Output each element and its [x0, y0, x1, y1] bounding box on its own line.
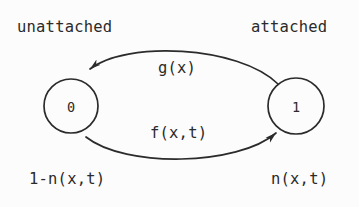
state-caption-unattached: unattached [17, 20, 112, 36]
state-caption-attached: attached [251, 20, 327, 36]
transition-label-f: f(x,t) [150, 126, 207, 142]
state-node-0-label: 0 [67, 99, 75, 115]
transition-label-g: g(x) [158, 61, 196, 77]
state-occupancy-unattached: 1-n(x,t) [29, 172, 105, 188]
state-node-1-label: 1 [292, 99, 300, 115]
transition-diagram-figure: 0 1 unattached attached g(x) f(x,t) 1-n(… [0, 0, 359, 207]
state-occupancy-attached: n(x,t) [271, 172, 328, 188]
